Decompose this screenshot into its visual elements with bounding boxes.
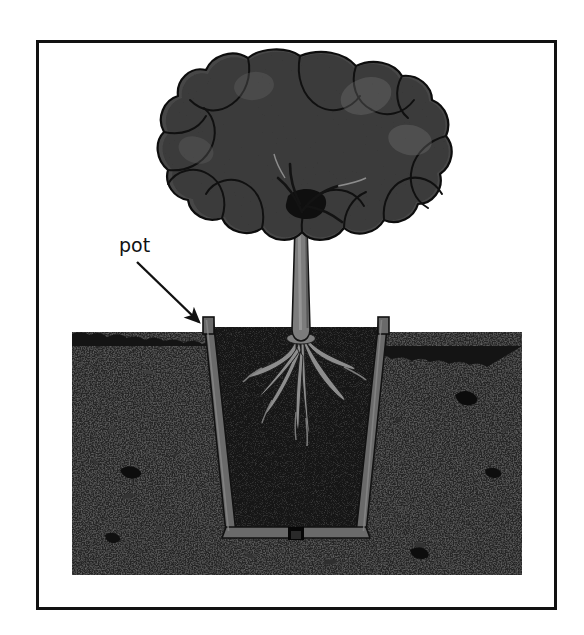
pot-drainage-hole-shade bbox=[291, 531, 301, 539]
pot-rim-left bbox=[203, 317, 214, 334]
pot-label: pot bbox=[119, 234, 150, 256]
pot-annotation: pot bbox=[119, 234, 199, 322]
pot-leader-arrow bbox=[137, 262, 199, 322]
page-root: pot bbox=[0, 0, 584, 635]
pot-base-left bbox=[222, 527, 289, 538]
pot-rim-right bbox=[378, 317, 389, 334]
tree-canopy bbox=[158, 49, 452, 239]
pot-base-right bbox=[303, 527, 370, 538]
diagram-canvas: pot bbox=[0, 0, 584, 635]
